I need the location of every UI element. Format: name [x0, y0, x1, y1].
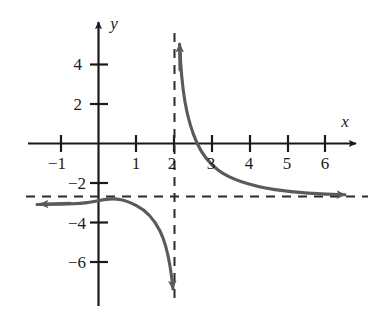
- x-tick-label-2: 2: [168, 154, 177, 173]
- coordinate-plot: −1 1 2 3 4 5 6 4 2 −2 −4 −6 x y: [0, 0, 385, 324]
- y-tick-labels: 4 2 −2 −4 −6: [68, 55, 87, 272]
- y-tick-label--6: −6: [68, 253, 86, 272]
- y-axis-label: y: [108, 14, 118, 33]
- y-tick-label--4: −4: [68, 214, 87, 233]
- y-tick-label-4: 4: [74, 55, 83, 74]
- y-tick-label--2: −2: [68, 174, 86, 193]
- curve-left-branch: [37, 199, 173, 289]
- graph-figure: −1 1 2 3 4 5 6 4 2 −2 −4 −6 x y: [0, 0, 385, 324]
- x-tick-label--1: −1: [48, 154, 66, 173]
- curve-left-branch-arrow-left: [40, 203, 70, 204]
- x-tick-label-1: 1: [132, 154, 141, 173]
- x-tick-labels: −1 1 2 3 4 5 6: [48, 154, 329, 173]
- x-tick-label-3: 3: [207, 154, 216, 173]
- y-tick-label-2: 2: [74, 95, 83, 114]
- x-tick-label-4: 4: [245, 154, 254, 173]
- x-axis-label: x: [340, 112, 349, 131]
- x-tick-label-5: 5: [283, 154, 292, 173]
- x-tick-label-6: 6: [321, 154, 330, 173]
